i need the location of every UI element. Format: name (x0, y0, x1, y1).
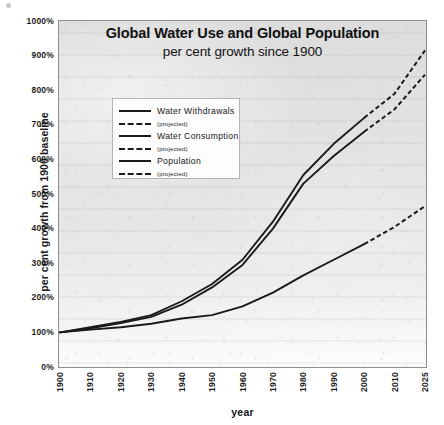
legend-sublabel: (projected) (157, 120, 188, 127)
y-tick-label-300: 300% (8, 258, 54, 268)
x-tick-label-2000: 2000 (359, 372, 369, 406)
y-tick-label-100: 100% (8, 327, 54, 337)
legend-label: Population (157, 156, 201, 166)
y-tick-label-1000: 1000% (8, 16, 54, 26)
y-tick-label-900: 900% (8, 50, 54, 60)
x-tick-label-1960: 1960 (238, 372, 248, 406)
series-line-projected-2 (364, 206, 425, 244)
x-tick-label-1980: 1980 (298, 372, 308, 406)
x-tick-label-1970: 1970 (268, 372, 278, 406)
legend-entry-0: Water Withdrawals(projected) (113, 105, 239, 130)
y-tick-label-0: 0% (8, 362, 54, 372)
x-tick-label-1940: 1940 (177, 372, 187, 406)
plot-area (58, 20, 427, 368)
y-tick-label-400: 400% (8, 223, 54, 233)
y-tick-label-700: 700% (8, 119, 54, 129)
y-tick-label-800: 800% (8, 85, 54, 95)
legend-solid-line-swatch (119, 110, 151, 112)
x-tick-label-2025: 2025 (420, 372, 430, 406)
legend-dashed-line-swatch (119, 123, 151, 125)
series-line-projected-1 (364, 75, 425, 132)
legend-sublabel: (projected) (157, 145, 188, 152)
legend-label: Water Consumption (157, 131, 239, 141)
legend-sublabel: (projected) (157, 170, 188, 177)
water-use-population-chart: per cent growth from 1900 baseline 0%100… (0, 0, 444, 425)
legend-dashed-line-swatch (119, 173, 151, 175)
x-tick-label-1900: 1900 (55, 372, 65, 406)
legend-entry-1: Water Consumption(projected) (113, 130, 239, 155)
x-tick-label-1910: 1910 (85, 372, 95, 406)
x-tick-label-1930: 1930 (146, 372, 156, 406)
legend-solid-line-swatch (119, 160, 151, 162)
y-tick-label-500: 500% (8, 189, 54, 199)
y-tick-label-200: 200% (8, 292, 54, 302)
series-lines (59, 21, 426, 367)
legend-entry-2: Population(projected) (113, 155, 239, 180)
x-tick-label-1920: 1920 (116, 372, 126, 406)
x-tick-label-1950: 1950 (207, 372, 217, 406)
legend-label: Water Withdrawals (157, 106, 235, 116)
x-tick-label-1990: 1990 (329, 372, 339, 406)
y-axis-tick-labels: 0%100%200%300%400%500%600%700%800%900%10… (2, 0, 54, 425)
y-tick-label-600: 600% (8, 154, 54, 164)
legend-solid-line-swatch (119, 135, 151, 137)
legend-dashed-line-swatch (119, 148, 151, 150)
x-tick-label-2010: 2010 (390, 372, 400, 406)
x-axis-title: year (58, 406, 427, 418)
chart-legend: Water Withdrawals(projected)Water Consum… (112, 98, 240, 179)
